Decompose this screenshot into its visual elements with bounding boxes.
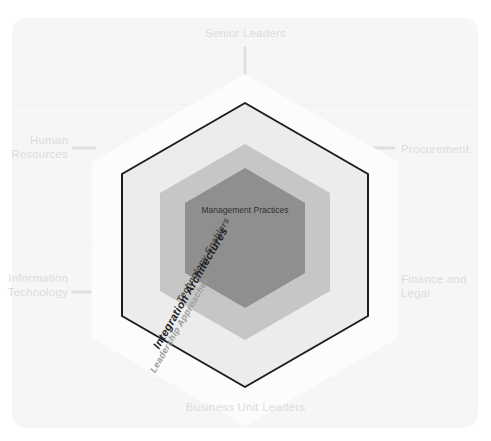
- spoke-label-business-unit-leaders: Business Unit Leaders: [0, 401, 491, 415]
- spoke-label-information-technology: Information Technology: [2, 272, 68, 299]
- spoke-label-human-resources: Human Resources: [8, 134, 68, 161]
- diagram-canvas: Management Practices Technology Enablers…: [0, 0, 491, 441]
- spoke-label-senior-leaders: Senior Leaders: [0, 27, 491, 41]
- spoke-label-procurement: Procurement: [401, 143, 489, 157]
- spoke-label-finance-and-legal: Finance and Legal: [401, 273, 487, 300]
- ring-label-management-practices: Management Practices: [175, 205, 315, 216]
- hexagon-stack: Management Practices Technology Enablers…: [0, 0, 491, 441]
- hexagon-svg: [0, 0, 491, 441]
